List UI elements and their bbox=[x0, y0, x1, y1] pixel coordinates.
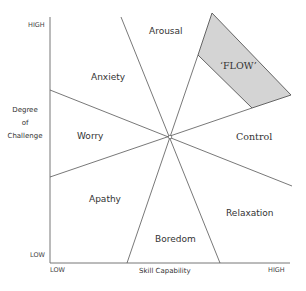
boundary-worry-apathy-control-flow bbox=[50, 108, 252, 177]
center-point bbox=[168, 135, 172, 139]
y-axis-title: Degree of Challenge bbox=[6, 104, 44, 143]
region-flow-label: ‘FLOW’ bbox=[220, 60, 257, 71]
region-worry-label: Worry bbox=[77, 131, 103, 141]
y-axis-high-label: HIGH bbox=[28, 21, 45, 29]
region-relaxation-label: Relaxation bbox=[226, 208, 273, 218]
y-axis-title-line1: Degree bbox=[6, 104, 44, 117]
y-axis-title-line2: of bbox=[6, 117, 44, 130]
boundary-arousal-flow-apathy-boredom bbox=[127, 55, 198, 263]
region-apathy-label: Apathy bbox=[89, 194, 121, 204]
x-axis-title: Skill Capability bbox=[139, 265, 191, 278]
region-boredom-label: Boredom bbox=[155, 234, 196, 244]
region-anxiety-label: Anxiety bbox=[91, 72, 125, 82]
flow-model-diagram: HIGH LOW Degree of Challenge LOW Skill C… bbox=[0, 0, 306, 291]
diagram-canvas bbox=[0, 0, 306, 291]
region-arousal-label: Arousal bbox=[149, 26, 183, 36]
region-control-label: Control bbox=[236, 131, 272, 142]
y-axis-low-label: LOW bbox=[30, 251, 45, 259]
y-axis-title-line3: Challenge bbox=[6, 130, 44, 143]
x-axis-low-label: LOW bbox=[50, 266, 65, 274]
x-axis-high-label: HIGH bbox=[268, 266, 285, 274]
